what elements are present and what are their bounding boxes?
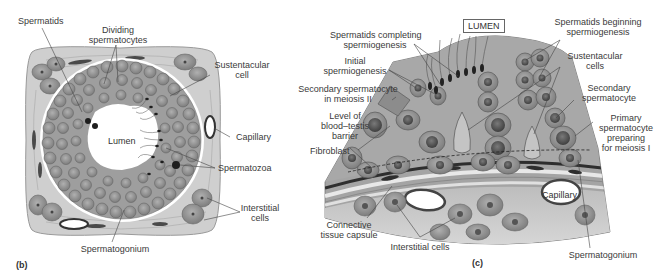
label-line: Dividing <box>88 25 148 35</box>
label-line: Sustentacular <box>212 60 272 70</box>
label-line: Interstitial <box>238 203 282 213</box>
label-line: tissue capsule <box>316 230 382 240</box>
label-spermatids-completing: Spermatids completing spermiogenesis <box>330 30 420 50</box>
label-line: cells <box>560 61 630 71</box>
label-line: Primary <box>594 113 658 123</box>
label-lumen-b: Lumen <box>108 136 136 146</box>
label-secondary-spermatocyte-meiosis: Secondary spermatocyte in meiosis II <box>298 84 398 104</box>
label-line: spermiogenesis <box>548 27 648 37</box>
label-secondary-spermatocyte: Secondary spermatocyte <box>576 83 642 103</box>
label-blood-testis-barrier: Level of blood–testis barrier <box>310 111 380 141</box>
label-fibroblast: Fibroblast <box>310 146 350 156</box>
label-interstitial-cells-b: Interstitial cells <box>238 203 282 223</box>
label-line: spermatocyte <box>594 123 658 133</box>
label-line: spermiogenesis <box>320 66 390 76</box>
label-line: blood–testis <box>310 121 380 131</box>
label-initial-spermiogenesis: Initial spermiogenesis <box>320 56 390 76</box>
label-sustentacular-cell: Sustentacular cell <box>212 60 272 80</box>
label-line: cells <box>238 213 282 223</box>
label-line: spermatocyte <box>576 93 642 103</box>
label-primary-spermatocyte: Primary spermatocyte preparing for meios… <box>594 113 658 153</box>
label-line: Connective <box>316 220 382 230</box>
label-line: Initial <box>320 56 390 66</box>
label-line: Secondary <box>576 83 642 93</box>
label-line: Sustentacular <box>560 51 630 61</box>
label-capillary-b: Capillary <box>236 132 271 142</box>
label-line: preparing <box>594 133 658 143</box>
label-spermatogonium-b: Spermatogonium <box>80 244 150 254</box>
label-line: cell <box>212 70 272 80</box>
label-line: barrier <box>310 131 380 141</box>
label-connective-tissue-capsule: Connective tissue capsule <box>316 220 382 240</box>
label-line: for meiosis I <box>594 143 658 153</box>
label-spermatogonium-c: Spermatogonium <box>568 250 638 260</box>
label-sustentacular-cells-c: Sustentacular cells <box>560 51 630 71</box>
label-line: Spermatids beginning <box>548 17 648 27</box>
label-spermatids-beginning: Spermatids beginning spermiogenesis <box>548 17 648 37</box>
label-lumen-box: LUMEN <box>463 19 505 33</box>
label-interstitial-cells-c: Interstitial cells <box>385 242 455 252</box>
label-spermatids: Spermatids <box>18 16 64 26</box>
panel-c-letter: (c) <box>472 258 483 268</box>
label-dividing-spermatocytes: Dividing spermatocytes <box>88 25 148 45</box>
label-spermatozoa: Spermatozoa <box>218 163 272 173</box>
label-line: spermiogenesis <box>330 40 420 50</box>
label-line: in meiosis II <box>298 94 398 104</box>
label-line: Spermatids completing <box>330 30 420 40</box>
label-line: spermatocytes <box>88 35 148 45</box>
figure: Spermatids Dividing spermatocytes Susten… <box>0 0 659 279</box>
panel-b-letter: (b) <box>16 260 28 270</box>
label-line: Secondary spermatocyte <box>298 84 398 94</box>
label-line: Level of <box>310 111 380 121</box>
label-capillary-c: Capillary <box>542 190 577 200</box>
